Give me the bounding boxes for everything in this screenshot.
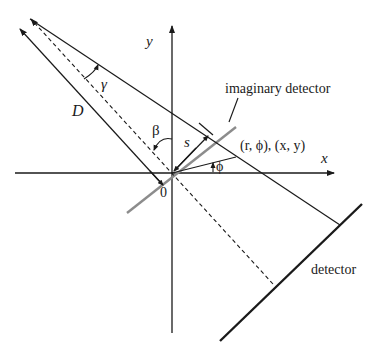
beta-arc [154, 138, 172, 150]
point-vector [172, 157, 236, 173]
fan-beam-diagram: y x 0 γ β D s (r, ϕ), (x, y) ϕ imaginary… [0, 0, 379, 359]
origin-label: 0 [160, 185, 167, 200]
beta-label: β [152, 122, 160, 138]
gamma-arc [84, 65, 98, 79]
imaginary-detector-label: imaginary detector [225, 81, 331, 96]
s-label: s [184, 134, 190, 150]
source-distance-label: D [71, 102, 84, 119]
point-label: (r, ϕ), (x, y) [240, 138, 305, 154]
central-ray [31, 19, 273, 284]
x-axis-label: x [320, 150, 328, 166]
fan-ray [30, 19, 340, 225]
gamma-label: γ [101, 76, 108, 92]
source-distance-arrow [20, 29, 161, 183]
detector-label: detector [311, 262, 356, 277]
imaginary-detector-leader [229, 98, 238, 122]
y-axis-label: y [144, 33, 153, 49]
phi-label: ϕ [216, 159, 223, 174]
